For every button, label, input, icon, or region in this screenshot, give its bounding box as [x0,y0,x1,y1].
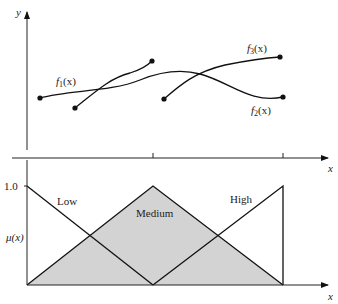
y-tick-1: 1.0 [4,180,18,192]
label-low: Low [57,195,77,207]
bottom-plot: 1.0 μ(x) x Low Medium High [4,160,333,302]
top-x-label: x [327,162,333,174]
point-f3-end [277,54,282,59]
label-high: High [230,193,253,205]
top-y-label: y [15,6,21,18]
point-f1-start [37,95,42,100]
label-f1: f1(x) [56,75,76,89]
curve-f-short [75,61,152,108]
bottom-x-label: x [327,290,333,302]
point-f2-end [280,94,285,99]
label-f2: f2(x) [251,104,271,118]
point-short-start [72,105,77,110]
label-f3: f3(x) [247,42,267,56]
bottom-y-label: μ(x) [5,231,24,244]
fuzzy-diagram: y x f1(x) f2(x) f3(x) 1.0 μ(x) x Low Med… [0,0,338,304]
curve-f1 [40,72,283,99]
point-f3-start [161,96,166,101]
point-short-end [149,58,154,63]
top-plot: y x f1(x) f2(x) f3(x) [12,6,333,174]
label-medium: Medium [136,207,174,219]
curve-f3 [164,57,280,99]
